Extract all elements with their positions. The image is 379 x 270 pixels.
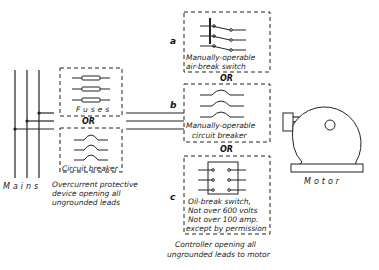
oil-break-switch-icon: [198, 162, 246, 194]
option-c-letter: c: [170, 192, 175, 202]
option-c-caption-4: except by permission: [186, 224, 267, 233]
option-b-letter: b: [170, 100, 176, 110]
fuse-icon: [72, 76, 110, 102]
option-c-caption-1: Oil-break switch,: [188, 197, 251, 206]
motor-label: Motor: [304, 177, 342, 186]
or-label-left: OR: [82, 117, 95, 126]
option-a-letter: a: [170, 36, 176, 46]
option-b-caption-1: Manually-operable: [186, 121, 255, 130]
or-label-a-b: OR: [220, 74, 233, 83]
option-a-caption-2: air-break switch: [186, 62, 246, 71]
circuit-breaker-icon: [200, 90, 244, 117]
option-c-caption-3: Not over 100 amp.: [188, 215, 258, 224]
or-label-b-c: OR: [220, 145, 233, 154]
option-a-caption-1: Manually-operable: [186, 53, 255, 62]
option-c-caption-2: Not over 600 volts: [188, 206, 257, 215]
option-b-caption-2: circuit breaker: [192, 131, 247, 140]
mains-label: Mains: [3, 182, 41, 191]
fuses-label: Fuses: [76, 105, 112, 114]
breaker-icon: [74, 135, 108, 160]
circuit-breaker-label: Circuit breaker: [62, 164, 118, 173]
air-break-switch-icon: [200, 18, 246, 51]
